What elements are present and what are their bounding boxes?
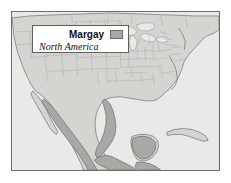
map-legend: Margay range North America <box>32 25 129 53</box>
map-frame: Margay range North America <box>11 11 220 171</box>
range-color-swatch-icon <box>110 30 123 39</box>
legend-subtitle: North America <box>38 41 123 53</box>
legend-title-row: Margay range <box>38 28 123 41</box>
legend-title: Margay <box>69 29 104 40</box>
range-map-figure: Margay range North America <box>0 0 231 183</box>
